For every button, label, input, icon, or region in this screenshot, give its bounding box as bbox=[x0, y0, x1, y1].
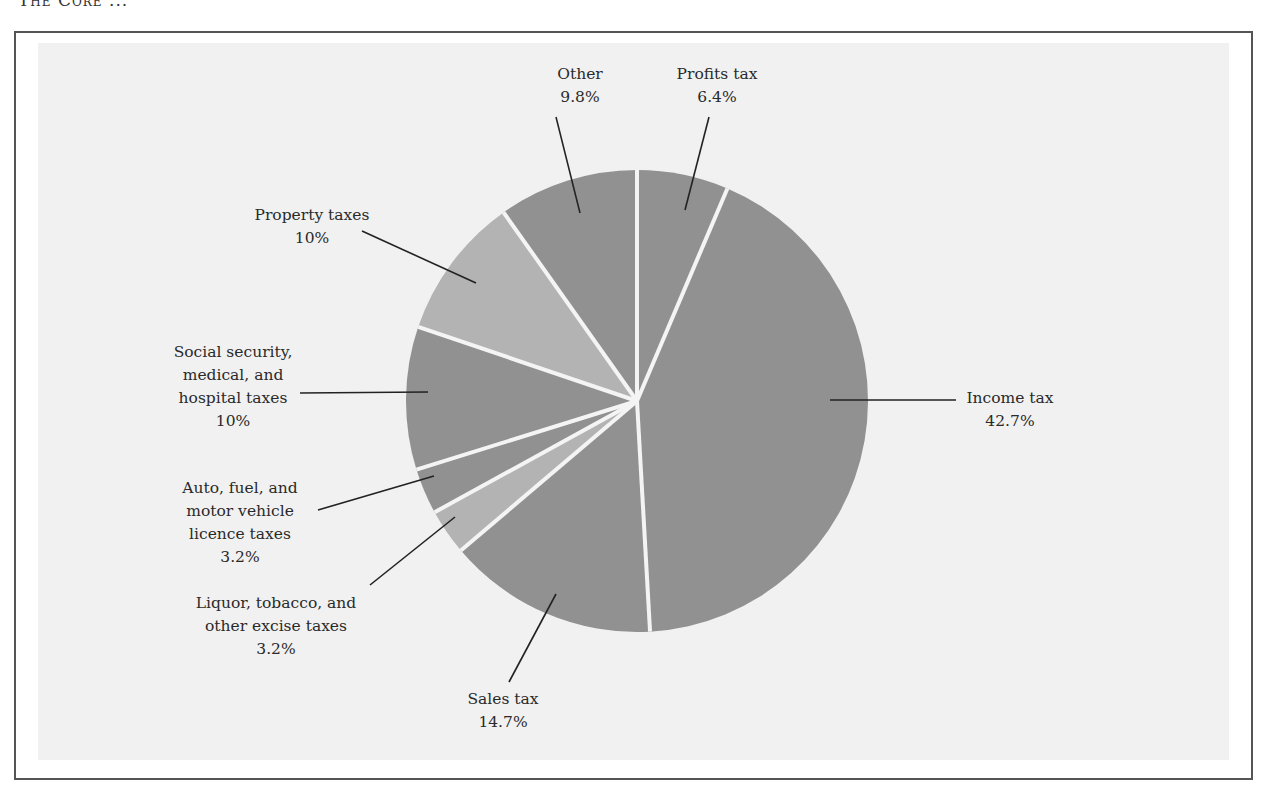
leader-liquor bbox=[370, 517, 455, 585]
label-profits-tax: Profits tax 6.4% bbox=[677, 63, 758, 109]
label-liquor-tobacco: Liquor, tobacco, and other excise taxes … bbox=[196, 592, 356, 661]
label-auto-fuel: Auto, fuel, and motor vehicle licence ta… bbox=[182, 477, 297, 569]
leader-auto bbox=[318, 476, 434, 510]
pie-slices bbox=[406, 170, 868, 632]
label-social-security: Social security, medical, and hospital t… bbox=[174, 341, 293, 433]
label-income-tax: Income tax 42.7% bbox=[966, 387, 1053, 433]
leader-sales bbox=[509, 594, 556, 682]
label-sales-tax: Sales tax 14.7% bbox=[467, 688, 538, 734]
label-other: Other 9.8% bbox=[557, 63, 603, 109]
leader-social bbox=[300, 392, 428, 393]
label-property-taxes: Property taxes 10% bbox=[255, 204, 370, 250]
